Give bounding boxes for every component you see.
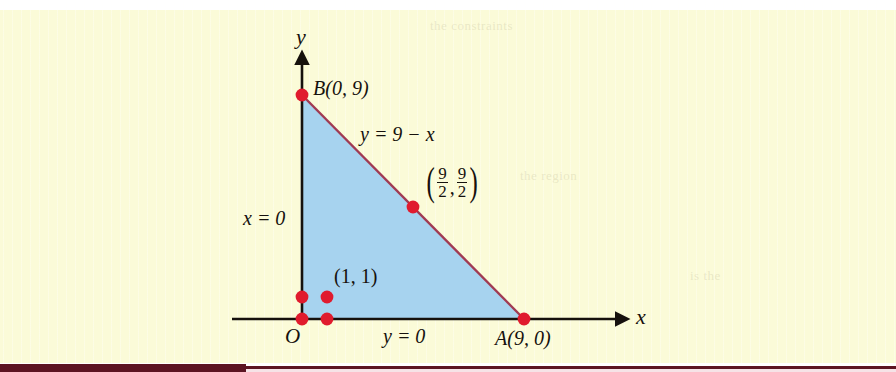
point-midpoint	[407, 201, 420, 214]
label-midpoint: (92,92)	[424, 166, 481, 202]
midpoint-close-paren: )	[470, 170, 478, 195]
label-lattice-point: (1, 1)	[334, 266, 377, 286]
label-hypotenuse-equation: y = 9 − x	[360, 124, 435, 144]
midpoint-fraction-x: 92	[437, 165, 448, 201]
label-bottom-constraint: y = 0	[383, 326, 425, 346]
point-1-1	[321, 291, 334, 304]
midpoint-numerator-y: 9	[457, 165, 468, 182]
label-left-constraint: x = 0	[243, 208, 285, 228]
point-1-0	[321, 313, 334, 326]
label-vertex-b: B(0, 9)	[313, 78, 369, 98]
x-axis-label: x	[636, 306, 646, 328]
point-0-1	[296, 291, 309, 304]
y-axis-label: y	[296, 26, 306, 48]
figure-page: the constraints the region is the y x B(…	[0, 0, 896, 372]
point-vertex-a	[518, 313, 531, 326]
point-vertex-b	[296, 89, 309, 102]
midpoint-numerator-x: 9	[437, 165, 448, 182]
page-rule-thick	[0, 364, 246, 372]
midpoint-fraction-y: 92	[457, 165, 468, 201]
label-origin: O	[285, 326, 300, 347]
midpoint-comma: ,	[448, 177, 457, 197]
midpoint-open-paren: (	[427, 170, 435, 195]
label-vertex-a: A(9, 0)	[495, 328, 551, 348]
midpoint-denominator-x: 2	[437, 182, 448, 200]
midpoint-denominator-y: 2	[457, 182, 468, 200]
